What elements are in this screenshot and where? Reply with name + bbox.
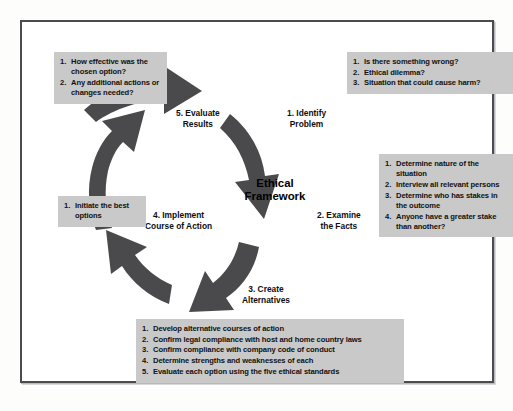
list-item: Initiate the best options (64, 201, 139, 221)
list-item: Any additional actions or changes needed… (60, 78, 160, 98)
arrow-create-to-implement (106, 230, 172, 304)
diagram-frame: Ethical Framework 1. Identify Problem 2.… (20, 20, 494, 383)
callout-examine-facts: Determine nature of the situation Interv… (379, 154, 513, 237)
callout-create-alternatives: Develop alternative courses of action Co… (136, 319, 404, 383)
list-item: Interview all relevant persons (385, 180, 506, 190)
center-title-line2: Framework (227, 190, 323, 203)
callout-implement-course: Initiate the best options (58, 196, 146, 227)
list-item: Confirm compliance with company code of … (142, 345, 397, 355)
callout-identify-problem: Is there something wrong? Ethical dilemm… (347, 52, 513, 94)
node-identify-line1: 1. Identify (287, 108, 326, 119)
list-item: Is there something wrong? (353, 57, 506, 67)
list-item: Situation that could cause harm? (353, 78, 506, 88)
node-label-create-alternatives: 3. Create Alternatives (242, 284, 290, 305)
list-item: Confirm legal compliance with host and h… (142, 335, 397, 345)
list-item: Ethical dilemma? (353, 68, 506, 78)
center-title: Ethical Framework (227, 177, 323, 203)
callout-facts-list: Determine nature of the situation Interv… (385, 159, 506, 232)
node-label-examine-facts: 2. Examine the Facts (317, 210, 361, 231)
node-evaluate-line2: Results (176, 119, 220, 130)
list-item: How effective was the chosen option? (60, 57, 160, 77)
callout-create-list: Develop alternative courses of action Co… (142, 324, 397, 377)
node-create-line1: 3. Create (242, 284, 290, 295)
node-identify-line2: Problem (287, 119, 326, 130)
list-item: Determine nature of the situation (385, 159, 506, 179)
node-label-evaluate-results: 5. Evaluate Results (176, 108, 220, 129)
node-label-implement-course: 4. Implement Course of Action (145, 210, 212, 231)
diagram-page: Ethical Framework 1. Identify Problem 2.… (0, 0, 513, 411)
list-item: Evaluate each option using the five ethi… (142, 367, 397, 377)
node-implement-line1: 4. Implement (145, 210, 212, 221)
list-item: Determine strengths and weaknesses of ea… (142, 356, 397, 366)
node-facts-line1: 2. Examine (317, 210, 361, 221)
node-facts-line2: the Facts (317, 221, 361, 232)
callout-implement-list: Initiate the best options (64, 201, 139, 221)
list-item: Determine who has stakes in the outcome (385, 191, 506, 211)
node-evaluate-line1: 5. Evaluate (176, 108, 220, 119)
center-title-line1: Ethical (227, 177, 323, 190)
node-label-identify: 1. Identify Problem (287, 108, 326, 129)
callout-identify-list: Is there something wrong? Ethical dilemm… (353, 57, 506, 89)
list-item: Anyone have a greater stake than another… (385, 212, 506, 232)
node-implement-line2: Course of Action (145, 221, 212, 232)
callout-evaluate-results: How effective was the chosen option? Any… (54, 52, 167, 104)
list-item: Develop alternative courses of action (142, 324, 397, 334)
node-create-line2: Alternatives (242, 295, 290, 306)
callout-evaluate-list: How effective was the chosen option? Any… (60, 57, 160, 98)
